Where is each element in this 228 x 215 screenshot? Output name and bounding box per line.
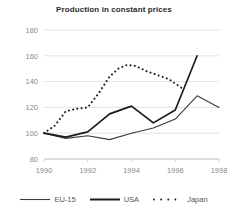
series-line-japan [44,65,182,133]
chart-legend: EU-15 USA Japan [0,188,228,210]
x-tick-label: 1994 [123,166,140,175]
legend-swatch-japan [153,195,183,204]
data-series-group [44,56,219,140]
series-line-usa [44,56,197,137]
y-tick-label: 80 [30,155,38,164]
x-tick-label: 1990 [36,166,53,175]
legend-item-eu15: EU-15 [20,195,75,204]
legend-item-japan: Japan [153,195,207,204]
chart-container: Production in constant prices 8010012014… [0,0,228,215]
legend-label-usa: USA [124,195,139,204]
y-tick-label: 140 [25,77,38,86]
gridlines [44,30,219,159]
legend-item-usa: USA [90,195,139,204]
y-tick-label: 160 [25,52,38,61]
legend-swatch-usa [90,195,120,204]
plot-area: 80100120140160180 19901992199419961998 [0,0,228,188]
x-tick-label: 1998 [211,166,228,175]
legend-swatch-eu15 [20,195,50,204]
legend-label-eu15: EU-15 [54,195,75,204]
y-tick-label: 120 [25,103,38,112]
y-tick-label: 180 [25,26,38,35]
y-tick-label: 100 [25,129,38,138]
x-tick-label: 1992 [79,166,96,175]
x-tick-label: 1996 [167,166,184,175]
x-axis-tick-labels: 19901992199419961998 [36,166,228,175]
y-axis-tick-labels: 80100120140160180 [25,26,38,164]
legend-label-japan: Japan [187,195,207,204]
